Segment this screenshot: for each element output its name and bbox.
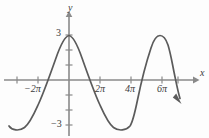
x-tick-label-6pi: 6π xyxy=(157,84,167,94)
coordinate-plane-svg xyxy=(0,0,209,138)
x-tick-label-2pi: 2π xyxy=(95,84,105,94)
y-axis xyxy=(66,11,73,136)
y-value-label-minus-3: −3 xyxy=(51,119,62,129)
x-axis-label: x xyxy=(200,68,204,78)
x-tick-label-4pi: 4π xyxy=(125,84,135,94)
x-tick-label-minus-2pi: −2π xyxy=(24,84,41,94)
y-axis-label: y xyxy=(68,3,72,13)
graph-figure: −2π 2π 4π 6π 3 −3 x y xyxy=(0,0,209,138)
y-value-label-3: 3 xyxy=(56,28,61,38)
